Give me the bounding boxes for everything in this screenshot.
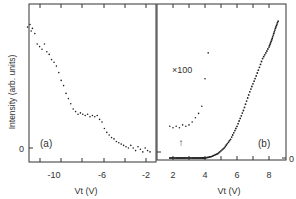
data-point bbox=[51, 59, 53, 61]
data-point bbox=[147, 150, 149, 152]
panel-b: ×100 ↑ (b) 0 2 4 6 8 Vt (V) bbox=[157, 4, 294, 196]
series-a-points bbox=[27, 24, 151, 153]
data-point bbox=[149, 151, 151, 153]
data-point bbox=[240, 115, 242, 117]
data-point bbox=[89, 116, 91, 118]
data-point bbox=[46, 51, 48, 53]
data-point bbox=[191, 121, 193, 123]
data-point bbox=[228, 141, 230, 143]
data-point bbox=[77, 113, 79, 115]
data-point bbox=[63, 85, 65, 87]
data-point bbox=[39, 46, 41, 48]
data-point bbox=[229, 140, 231, 142]
data-point bbox=[128, 147, 130, 149]
data-point bbox=[116, 141, 118, 143]
data-point bbox=[106, 132, 108, 134]
data-point bbox=[68, 98, 70, 100]
data-point bbox=[239, 118, 241, 120]
data-point bbox=[30, 30, 32, 32]
data-point bbox=[246, 100, 248, 102]
data-point bbox=[247, 97, 249, 99]
data-point bbox=[277, 20, 279, 22]
data-point bbox=[245, 103, 247, 105]
data-point bbox=[198, 113, 200, 115]
panel-a: (a) 0 -10 -6 -2 Vt (V) bbox=[19, 4, 156, 196]
data-point bbox=[137, 146, 139, 148]
magnification-label: ×100 bbox=[172, 65, 192, 75]
data-point bbox=[185, 126, 187, 128]
data-point bbox=[172, 127, 174, 129]
data-point bbox=[53, 61, 55, 63]
data-point bbox=[27, 26, 29, 28]
data-point bbox=[266, 50, 268, 52]
x-axis-label-a: Vt (V) bbox=[74, 186, 97, 196]
data-point bbox=[58, 72, 60, 74]
data-point bbox=[188, 124, 190, 126]
data-point bbox=[118, 142, 120, 144]
data-point bbox=[94, 116, 96, 118]
data-point bbox=[144, 147, 146, 149]
data-point bbox=[99, 119, 101, 121]
data-point bbox=[252, 83, 254, 85]
data-point bbox=[227, 143, 229, 145]
data-point bbox=[135, 150, 137, 152]
data-point bbox=[263, 56, 265, 58]
data-point bbox=[241, 112, 243, 114]
data-point bbox=[34, 33, 36, 35]
data-point bbox=[104, 128, 106, 130]
data-point bbox=[251, 86, 253, 88]
data-point bbox=[120, 143, 122, 145]
figure: (a) 0 -10 -6 -2 Vt (V) Intensity (arb. u… bbox=[0, 0, 296, 199]
data-point bbox=[264, 54, 266, 56]
x-axis-label-b: Vt (V) bbox=[217, 186, 240, 196]
data-point bbox=[238, 120, 240, 122]
data-point bbox=[248, 94, 250, 96]
y-zero-label-a: 0 bbox=[19, 144, 24, 154]
data-point bbox=[92, 115, 94, 117]
xtick-b-2: 6 bbox=[234, 170, 239, 180]
data-point bbox=[29, 24, 31, 26]
data-point bbox=[132, 147, 134, 149]
data-point bbox=[125, 146, 127, 148]
data-point bbox=[234, 130, 236, 132]
data-point bbox=[259, 66, 261, 68]
data-point bbox=[82, 113, 84, 115]
data-point bbox=[225, 144, 227, 146]
data-point bbox=[235, 128, 237, 130]
data-point bbox=[273, 31, 275, 33]
data-point bbox=[72, 108, 74, 110]
data-point bbox=[260, 64, 262, 66]
data-point bbox=[271, 38, 273, 40]
data-point bbox=[65, 93, 67, 95]
data-point bbox=[253, 80, 255, 82]
data-point bbox=[249, 91, 251, 93]
data-point bbox=[237, 123, 239, 125]
data-point bbox=[60, 80, 62, 82]
data-point bbox=[56, 65, 58, 67]
data-point bbox=[84, 115, 86, 117]
data-point bbox=[111, 137, 113, 139]
data-point bbox=[223, 147, 225, 149]
xtick-b-1: 4 bbox=[202, 170, 207, 180]
panel-b-label: (b) bbox=[258, 138, 270, 149]
y-zero-label-b: 0 bbox=[289, 154, 294, 164]
data-point bbox=[254, 78, 256, 80]
data-point bbox=[236, 125, 238, 127]
data-point bbox=[142, 151, 144, 153]
data-point bbox=[75, 111, 77, 113]
data-point bbox=[272, 36, 274, 38]
data-point bbox=[274, 29, 276, 31]
threshold-arrow: ↑ bbox=[179, 137, 184, 148]
data-point bbox=[195, 117, 197, 119]
xtick-a-0: -10 bbox=[47, 170, 60, 180]
data-point bbox=[175, 126, 177, 128]
data-point bbox=[243, 110, 245, 112]
panel-a-label: (a) bbox=[40, 138, 52, 149]
xtick-b-0: 2 bbox=[170, 170, 175, 180]
y-axis-label: Intensity (arb. units) bbox=[7, 55, 17, 130]
data-point bbox=[256, 72, 258, 74]
data-point bbox=[80, 112, 82, 114]
xtick-a-2: -2 bbox=[142, 170, 150, 180]
data-point bbox=[233, 132, 235, 134]
data-point bbox=[130, 145, 132, 147]
